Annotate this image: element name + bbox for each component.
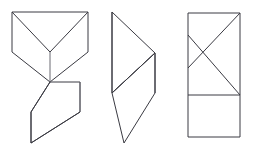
figure-3-outer-rectangle (188, 13, 240, 137)
figure-3 (188, 13, 240, 137)
geometric-figures-canvas (0, 0, 253, 152)
figure-panel (0, 0, 253, 152)
